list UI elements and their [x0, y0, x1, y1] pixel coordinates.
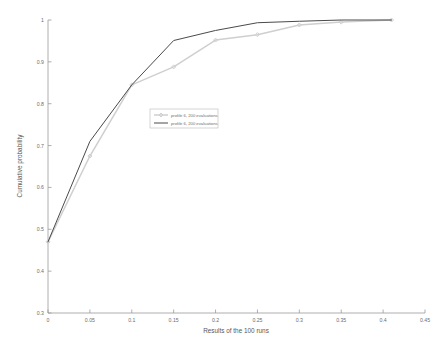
y-tick-label: 0.3	[37, 310, 44, 316]
x-tick-label: 0.45	[420, 317, 430, 323]
legend-label-0: profile 6, 200 evaluations	[171, 113, 218, 118]
x-tick-label: 0	[47, 317, 50, 323]
y-tick-label: 0.5	[37, 226, 44, 232]
chart-legend: profile 6, 200 evaluationsprofile 6, 200…	[150, 109, 218, 128]
y-tick-label: 0.9	[37, 59, 44, 65]
x-tick-label: 0.3	[296, 317, 303, 323]
x-tick-label: 0.25	[252, 317, 262, 323]
series-line-1	[48, 20, 391, 242]
x-tick-label: 0.1	[128, 317, 135, 323]
y-tick-label: 0.7	[37, 143, 44, 149]
series-line-0	[48, 20, 391, 242]
cumulative-probability-line-chart: 00.050.10.150.20.250.30.350.40.45 0.30.4…	[0, 0, 440, 357]
x-tick-label: 0.2	[212, 317, 219, 323]
legend-label-1: profile 6, 200 evaluations	[171, 121, 218, 126]
x-axis-ticks: 00.050.10.150.20.250.30.350.40.45	[47, 310, 431, 324]
y-tick-label: 0.6	[37, 184, 44, 190]
y-tick-label: 0.4	[37, 268, 44, 274]
series-layer	[46, 18, 393, 244]
y-tick-label: 0.8	[37, 101, 44, 107]
x-tick-label: 0.05	[85, 317, 95, 323]
chart-figure: 00.050.10.150.20.250.30.350.40.45 0.30.4…	[0, 0, 440, 357]
x-tick-label: 0.35	[336, 317, 346, 323]
y-tick-label: 1	[41, 17, 44, 23]
y-axis-title: Cumulative probability	[16, 134, 24, 198]
x-tick-label: 0.15	[169, 317, 179, 323]
y-axis-ticks: 0.30.40.50.60.70.80.91	[37, 17, 52, 316]
x-axis-title: Results of the 100 runs	[203, 327, 269, 334]
x-tick-label: 0.4	[380, 317, 387, 323]
